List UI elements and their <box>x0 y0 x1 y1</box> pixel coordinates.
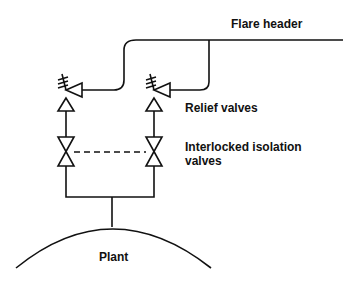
spring-left-icon <box>58 74 68 90</box>
spring-right-icon <box>146 74 156 90</box>
isolation-valves-label-1: Interlocked isolation <box>185 140 302 154</box>
plant-label: Plant <box>99 250 128 264</box>
relief-valve-right-outlet <box>154 83 170 97</box>
relief-valve-left-outlet <box>66 83 82 97</box>
flare-header-label: Flare header <box>231 17 302 31</box>
relief-valve-right-inlet <box>146 98 162 111</box>
right-branch-pipe <box>170 40 209 90</box>
isolation-valves-label-2: valves <box>185 154 222 168</box>
flare-header-pipe <box>82 40 343 90</box>
isolation-valve-right <box>146 137 162 166</box>
isolation-valve-left <box>58 137 74 166</box>
relief-valve-left-inlet <box>58 98 74 111</box>
relief-valves-label: Relief valves <box>185 101 258 115</box>
